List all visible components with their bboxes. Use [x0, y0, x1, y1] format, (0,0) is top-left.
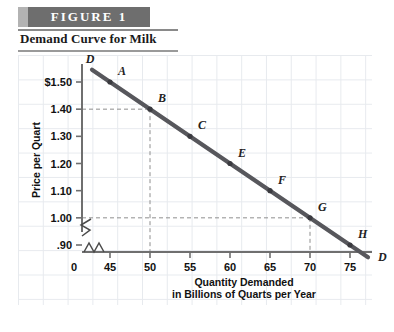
y-tick-label-4: 1.10 — [51, 185, 72, 197]
curve-label-end: D — [377, 250, 387, 264]
data-point-label-G: G — [318, 200, 327, 214]
x-tick-label-2: 55 — [184, 261, 196, 273]
data-point-H — [347, 242, 352, 247]
figure-panel: FIGURE 1 Demand Curve for Milk $1.501.40… — [0, 0, 394, 332]
y-tick-label-2: 1.30 — [51, 130, 72, 142]
data-point-B — [147, 107, 152, 112]
data-point-A — [107, 79, 112, 84]
demand-curve-plot: $1.501.401.301.201.101.00.90455055606570… — [0, 0, 394, 332]
data-point-C — [187, 134, 192, 139]
data-point-G — [307, 215, 312, 220]
x-tick-label-0: 45 — [104, 261, 116, 273]
x-tick-label-5: 70 — [304, 261, 316, 273]
data-point-E — [227, 161, 232, 166]
y-tick-label-3: 1.20 — [51, 158, 72, 170]
data-point-label-F: F — [277, 173, 286, 187]
data-point-label-C: C — [198, 118, 207, 132]
y-tick-label-6: .90 — [57, 239, 72, 251]
y-axis-title: Price per Quart — [30, 122, 42, 198]
origin-label: 0 — [71, 261, 77, 273]
x-tick-label-4: 65 — [264, 261, 276, 273]
x-tick-label-6: 75 — [344, 261, 356, 273]
x-tick-label-1: 50 — [144, 261, 156, 273]
x-axis-break-icon — [84, 243, 104, 252]
data-point-F — [267, 188, 272, 193]
x-axis-title-line2: in Billions of Quarts per Year — [172, 288, 316, 300]
x-tick-label-3: 60 — [224, 261, 236, 273]
y-tick-label-1: 1.40 — [51, 103, 72, 115]
data-point-label-B: B — [157, 91, 166, 105]
y-tick-label-0: $1.50 — [44, 76, 72, 88]
x-axis-title-line1: Quantity Demanded — [194, 276, 293, 288]
curve-label-start: D — [85, 52, 95, 66]
data-point-label-A: A — [117, 64, 126, 78]
data-point-label-E: E — [237, 146, 246, 160]
y-tick-label-5: 1.00 — [51, 212, 72, 224]
data-point-label-H: H — [357, 227, 368, 241]
